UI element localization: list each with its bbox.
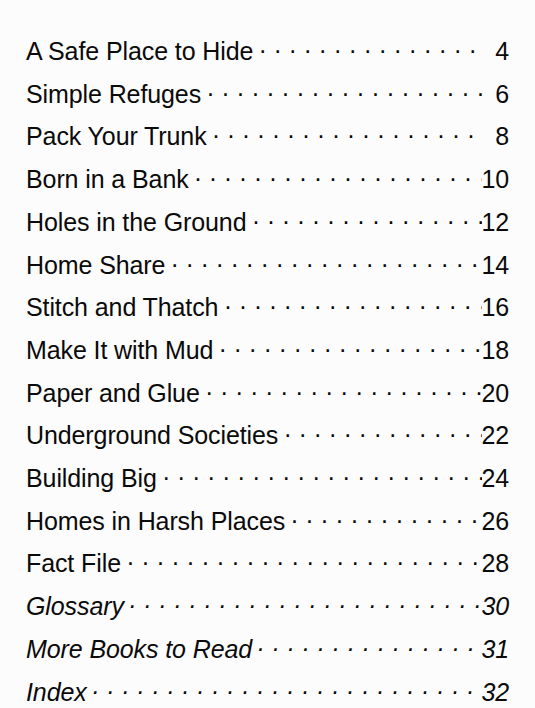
toc-dot-leader — [163, 455, 483, 487]
toc-entry-title: Simple Refuges — [26, 78, 201, 110]
toc-entry-page-number: 10 — [481, 163, 509, 195]
toc-entry-page-number: 6 — [483, 78, 509, 110]
toc-entry-page-number: 24 — [481, 462, 509, 494]
toc-entry-title: Fact File — [26, 547, 121, 579]
toc-dot-leader — [127, 540, 482, 572]
toc-entry-page-number: 30 — [481, 590, 509, 622]
toc-entry-title: Holes in the Ground — [26, 206, 246, 238]
toc-entry-page-number: 26 — [481, 505, 509, 537]
toc-dot-leader — [258, 626, 482, 658]
toc-entry-title: A Safe Place to Hide — [26, 35, 253, 67]
toc-entry-page-number: 22 — [481, 419, 509, 451]
toc-entry-title: Paper and Glue — [26, 377, 200, 409]
toc-entry-page-number: 14 — [481, 249, 509, 281]
toc-entry[interactable]: Index32 — [26, 669, 509, 701]
toc-entry-page-number: 12 — [481, 206, 509, 238]
toc-entry-title: Stitch and Thatch — [26, 291, 218, 323]
toc-entry-title: Pack Your Trunk — [26, 120, 207, 152]
toc-entry[interactable]: More Books to Read31 — [26, 626, 509, 658]
toc-entry[interactable]: Pack Your Trunk8 — [26, 113, 509, 145]
toc-entry[interactable]: Building Big24 — [26, 455, 509, 487]
toc-dot-leader — [206, 370, 483, 402]
toc-entry-page-number: 16 — [481, 291, 509, 323]
toc-entry-page-number: 31 — [481, 633, 509, 665]
toc-entry-title: Building Big — [26, 462, 157, 494]
toc-entry[interactable]: Glossary30 — [26, 583, 509, 615]
toc-dot-leader — [224, 284, 482, 316]
toc-entry[interactable]: Simple Refuges6 — [26, 71, 509, 103]
toc-entry[interactable]: Fact File28 — [26, 540, 509, 572]
toc-entry-title: Born in a Bank — [26, 163, 189, 195]
toc-dot-leader — [130, 583, 483, 615]
toc-entry[interactable]: Paper and Glue20 — [26, 370, 509, 402]
toc-entry-title: Underground Societies — [26, 419, 278, 451]
toc-entry[interactable]: Make It with Mud18 — [26, 327, 509, 359]
toc-entry[interactable]: Underground Societies22 — [26, 412, 509, 444]
toc-entry-page-number: 28 — [481, 547, 509, 579]
toc-entry-title: Index — [26, 676, 87, 708]
toc-dot-leader — [291, 498, 482, 530]
toc-dot-leader — [259, 28, 484, 60]
toc-entry[interactable]: Born in a Bank10 — [26, 156, 509, 188]
toc-dot-leader — [93, 669, 483, 701]
toc-entry[interactable]: Home Share14 — [26, 242, 509, 274]
toc-entry-title: Glossary — [26, 590, 124, 622]
toc-dot-leader — [284, 412, 482, 444]
toc-entry-title: Home Share — [26, 249, 165, 281]
toc-entry-title: Make It with Mud — [26, 334, 213, 366]
toc-dot-leader — [252, 199, 482, 231]
toc-dot-leader — [207, 71, 484, 103]
toc-entry-title: More Books to Read — [26, 633, 252, 665]
toc-entry-title: Homes in Harsh Places — [26, 505, 285, 537]
toc-entry[interactable]: Holes in the Ground12 — [26, 199, 509, 231]
toc-dot-leader — [213, 113, 484, 145]
toc-entry-page-number: 8 — [483, 120, 509, 152]
toc-entry[interactable]: Homes in Harsh Places26 — [26, 498, 509, 530]
toc-entry-page-number: 18 — [481, 334, 509, 366]
toc-entry[interactable]: Stitch and Thatch16 — [26, 284, 509, 316]
toc-entry[interactable]: A Safe Place to Hide4 — [26, 28, 509, 60]
toc-entry-page-number: 32 — [481, 676, 509, 708]
toc-dot-leader — [219, 327, 482, 359]
toc-dot-leader — [195, 156, 483, 188]
toc-entry-page-number: 4 — [483, 35, 509, 67]
table-of-contents: A Safe Place to Hide4Simple Refuges6Pack… — [0, 0, 535, 708]
toc-dot-leader — [171, 242, 482, 274]
toc-entry-page-number: 20 — [481, 377, 509, 409]
